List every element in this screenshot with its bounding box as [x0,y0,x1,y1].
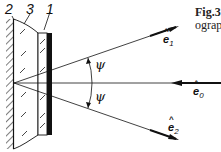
label-wall: 2 [5,2,13,16]
hatched-wall [6,19,14,149]
caption-line-2: ograp [195,19,221,32]
vector-e2-label: ^e2 [168,122,179,136]
vector-e1-label: ^e1 [163,34,174,48]
diagram: 2 3 1 ψ ψ ^e1 ^e0 ^e2 Fig.3 ograp [0,0,221,152]
angle-label-upper: ψ [95,58,105,71]
figure-caption: Fig.3 ograp [195,6,221,32]
plate [38,33,52,135]
diagram-canvas [0,0,221,152]
label-plate: 1 [46,2,54,16]
label-medium: 3 [26,2,34,16]
vector-e0-label: ^e0 [193,86,204,100]
angle-label-lower: ψ [95,90,105,103]
